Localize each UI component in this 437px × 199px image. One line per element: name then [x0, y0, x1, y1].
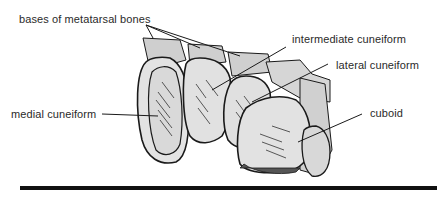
fifth-metatarsal-base: [302, 126, 330, 176]
label-lateral-cuneiform: lateral cuneiform: [336, 59, 419, 71]
intermediate-cuneiform-bone: [183, 58, 230, 143]
label-bases-of-metatarsal-bones: bases of metatarsal bones: [19, 13, 151, 25]
label-intermediate-cuneiform: intermediate cuneiform: [292, 33, 406, 45]
label-cuboid: cuboid: [370, 107, 403, 119]
medial-cuneiform-bone: [137, 57, 188, 163]
anatomy-diagram: bases of metatarsal bones intermediate c…: [0, 0, 437, 199]
cuboid-bone: [238, 97, 311, 174]
foot-bones-illustration: [0, 0, 437, 199]
label-medial-cuneiform: medial cuneiform: [11, 108, 96, 120]
